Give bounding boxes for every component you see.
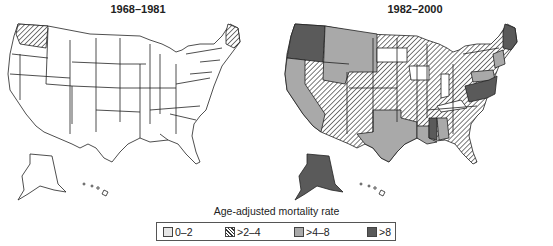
- swatch-0-2-icon: [163, 227, 173, 237]
- legend-title: Age-adjusted mortality rate: [0, 205, 553, 217]
- us-map-1982-2000: [277, 14, 553, 204]
- swatch-hatched-icon: [225, 227, 235, 237]
- legend-label: 0–2: [175, 226, 193, 238]
- legend: 0–2 >2–4 >4–8 >8: [156, 222, 396, 241]
- swatch-dark-gray-icon: [367, 227, 377, 237]
- legend-item-8: >8: [367, 226, 391, 238]
- us-map-1968-1981: [0, 14, 276, 204]
- legend-item-4-8: >4–8: [294, 226, 330, 238]
- legend-label: >8: [379, 226, 391, 238]
- legend-item-2-4: >2–4: [225, 226, 261, 238]
- legend-label: >4–8: [306, 226, 330, 238]
- legend-label: >2–4: [237, 226, 261, 238]
- swatch-mid-gray-icon: [294, 227, 304, 237]
- legend-item-0-2: 0–2: [163, 226, 193, 238]
